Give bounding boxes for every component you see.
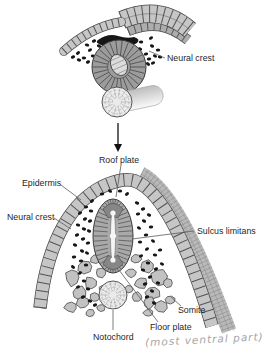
neural-crest-label: Neural crest — [167, 53, 215, 63]
somite-right — [125, 255, 175, 317]
neural-crest-cell — [76, 223, 81, 227]
somite-cell — [155, 301, 168, 313]
somite-cell — [90, 293, 99, 302]
neural-crest-cell — [136, 212, 141, 216]
neural-crest-cell — [70, 264, 75, 269]
neural-crest-cell — [136, 226, 141, 231]
neural-crest-cell — [72, 255, 77, 259]
neural-crest-cell — [159, 262, 164, 267]
neural-crest-cell — [150, 239, 155, 244]
neural-crest-cell — [79, 249, 84, 254]
neural-crest-cell — [87, 219, 92, 224]
neural-crest-label: Neural crest — [7, 212, 55, 222]
neural-crest-cell — [150, 61, 155, 66]
epidermis-leader-line — [61, 185, 81, 200]
bottom-cross-section: Roof plate Epidermis Neural crest Sulcus… — [7, 155, 264, 348]
neurulation-diagram: Neural crest — [0, 0, 268, 351]
neurulation-figure: Neural crest — [0, 0, 268, 351]
neural-crest-cell — [86, 229, 91, 233]
neural-crest-cell — [144, 233, 149, 236]
handwritten-note: (most ventral part) — [145, 330, 264, 348]
neural-crest-cell — [91, 39, 96, 44]
neural-crest-cell — [146, 213, 151, 217]
neural-crest-cell — [134, 201, 139, 205]
neural-crest-cell — [72, 243, 77, 248]
neural-crest-cell — [70, 55, 75, 59]
neural-crest-cell — [124, 191, 129, 196]
neural-crest-cell — [89, 209, 94, 213]
neural-crest-cell — [75, 50, 80, 55]
sulcus-limitans-label: Sulcus limitans — [197, 226, 256, 236]
neural-crest-cell — [144, 52, 149, 56]
somite-cell — [66, 270, 79, 287]
neural-tube — [92, 40, 146, 94]
somite-cell — [86, 310, 95, 317]
neural-crest-cell — [153, 253, 158, 256]
somite-cell — [125, 269, 136, 278]
neural-crest-cell — [87, 48, 92, 53]
roof-plate-label: Roof plate — [99, 155, 139, 165]
neural-crest-cell — [156, 48, 160, 51]
neural-crest-cell — [80, 237, 85, 241]
neural-crest-cell — [144, 247, 149, 252]
top-cross-section: Neural crest — [64, 14, 215, 117]
neural-canal-bulge — [110, 210, 115, 215]
neural-crest-cell — [82, 217, 87, 222]
somite-cell — [64, 302, 76, 312]
neural-canal-bulge — [110, 233, 116, 239]
neural-crest-cell — [140, 207, 145, 211]
neural-crest-cell — [85, 60, 90, 65]
neural-crest-cell — [84, 251, 89, 256]
neural-crest-cell — [149, 44, 154, 49]
somite-label: Somite — [178, 305, 205, 315]
neural-crest-cell — [139, 40, 144, 43]
notochord — [99, 281, 127, 309]
somite-cell — [132, 292, 142, 302]
neural-crest-cell — [76, 58, 81, 62]
notochord-label: Notochord — [93, 332, 134, 342]
epidermis-label: Epidermis — [22, 178, 62, 188]
neural-tube — [93, 199, 133, 273]
neural-crest-cell — [82, 56, 87, 59]
somite-cell — [86, 277, 97, 288]
neural-crest-cell — [141, 219, 146, 224]
neural-crest-cell — [85, 43, 90, 47]
neural-canal-bulge — [110, 257, 115, 262]
neural-crest-cell — [138, 240, 142, 243]
floor-plate-label: Floor plate — [150, 322, 192, 332]
somite-cell — [165, 296, 175, 304]
somite-cell — [164, 279, 173, 288]
neural-crest-cell — [74, 233, 79, 237]
neural-crest-cell — [86, 241, 91, 245]
neural-crest-cell — [149, 225, 154, 229]
neural-crest-cell — [148, 36, 153, 41]
neural-crest-cell — [81, 227, 86, 231]
down-arrow-icon — [114, 123, 122, 152]
neural-crest-cell — [118, 189, 122, 192]
neural-crest-cell — [158, 248, 163, 252]
neural-crest-leader-line — [149, 51, 165, 58]
neural-crest-cell — [147, 57, 152, 61]
